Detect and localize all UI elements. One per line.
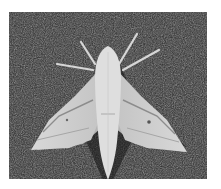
moth-photograph <box>9 12 207 179</box>
moth-illustration <box>9 12 207 179</box>
